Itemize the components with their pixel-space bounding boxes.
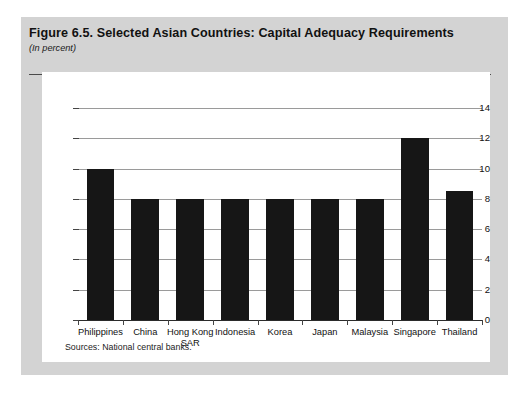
bar-slot — [213, 72, 258, 362]
x-tick-mark — [258, 320, 259, 325]
figure-title: Figure 6.5. Selected Asian Countries: Ca… — [29, 25, 495, 41]
x-tick-mark — [168, 320, 169, 325]
bar[interactable] — [401, 138, 429, 320]
plot-panel: 02468101214 PhilippinesChinaHong Kong SA… — [42, 72, 490, 362]
bar-slot — [392, 72, 437, 362]
bar[interactable] — [311, 199, 339, 320]
bar-slot — [168, 72, 213, 362]
bar[interactable] — [356, 199, 384, 320]
bar[interactable] — [446, 191, 474, 320]
x-tick-mark — [302, 320, 303, 325]
bar-slot — [123, 72, 168, 362]
bar-slot — [347, 72, 392, 362]
bar-slot — [437, 72, 482, 362]
bar-slot — [302, 72, 347, 362]
figure-root: Figure 6.5. Selected Asian Countries: Ca… — [0, 0, 530, 393]
figure-page-panel: Figure 6.5. Selected Asian Countries: Ca… — [21, 17, 508, 375]
x-tick-mark — [213, 320, 214, 325]
source-note: Sources: National central banks. — [65, 342, 192, 353]
x-tick-mark — [347, 320, 348, 325]
bar[interactable] — [176, 199, 204, 320]
figure-subtitle: (In percent) — [29, 42, 495, 54]
bar[interactable] — [87, 169, 115, 320]
bar-chart: 02468101214 PhilippinesChinaHong Kong SA… — [42, 72, 490, 362]
x-tick-mark — [123, 320, 124, 325]
bars-layer — [78, 72, 482, 362]
bar[interactable] — [131, 199, 159, 320]
bar[interactable] — [266, 199, 294, 320]
x-tick-mark — [78, 320, 79, 325]
x-tick-mark — [482, 320, 483, 325]
bar-slot — [78, 72, 123, 362]
bar-slot — [258, 72, 303, 362]
x-tick-label: Thailand — [431, 327, 488, 338]
x-tick-mark — [392, 320, 393, 325]
bar[interactable] — [221, 199, 249, 320]
x-tick-mark — [437, 320, 438, 325]
figure-header: Figure 6.5. Selected Asian Countries: Ca… — [29, 25, 495, 54]
